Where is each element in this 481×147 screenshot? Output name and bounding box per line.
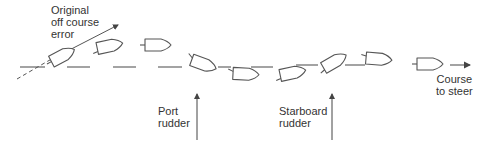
boat-icon <box>361 52 393 67</box>
boat-icons <box>44 37 443 82</box>
port-rudder-label: Port rudder <box>158 105 190 129</box>
boat-icon <box>185 53 218 75</box>
original-error-label: Original off course error <box>51 4 99 40</box>
boat-icon <box>412 58 443 70</box>
course-to-steer-label: Course to steer <box>436 73 473 97</box>
starboard-rudder-label: Starboard rudder <box>279 105 327 129</box>
boat-icon <box>274 64 307 82</box>
boat-icon <box>140 39 171 51</box>
steering-course-diagram: Original off course error Port rudder St… <box>0 0 481 147</box>
boat-icon <box>316 50 349 76</box>
boat-icon <box>228 67 260 81</box>
course-line <box>20 65 470 67</box>
boat-icon <box>44 44 77 69</box>
